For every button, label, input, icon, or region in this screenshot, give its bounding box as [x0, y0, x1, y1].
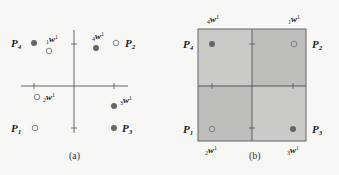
- label-3w1: 3w1: [287, 145, 299, 156]
- point-2w1: [34, 94, 40, 100]
- quadrant-top-right: [252, 29, 306, 86]
- point-3w1: [111, 103, 117, 109]
- label-p2: P2: [125, 37, 136, 51]
- label-p4: P4: [183, 38, 194, 52]
- panel-a: P4 1w1 4w1 P2 2w1 3w1 P1 P3 (a): [11, 30, 136, 162]
- label-1w1: 1w1: [46, 34, 58, 45]
- point-p3: [111, 125, 117, 131]
- label-p3: P3: [312, 123, 323, 137]
- label-1w1: 1w1: [288, 14, 300, 25]
- point-4w1: [93, 45, 99, 51]
- point-p1: [32, 125, 38, 131]
- caption-a: (a): [69, 150, 80, 162]
- figure: P4 1w1 4w1 P2 2w1 3w1 P1 P3 (a): [0, 0, 339, 175]
- label-2w1: 2w1: [205, 145, 217, 156]
- label-p1: P1: [183, 123, 193, 137]
- point-p3: [290, 126, 296, 132]
- panel-b: 4w1 1w1 2w1 3w1 P4 P2 P1 P3 (b): [183, 14, 323, 162]
- label-2w1: 2w1: [43, 92, 55, 103]
- point-p2: [113, 40, 119, 46]
- label-3w1: 3w1: [120, 95, 132, 106]
- label-p3: P3: [122, 122, 133, 136]
- quadrant-bottom-left: [198, 86, 252, 141]
- label-p2: P2: [312, 38, 323, 52]
- label-4w1: 4w1: [92, 31, 104, 42]
- label-p4: P4: [11, 37, 22, 51]
- label-p1: P1: [11, 122, 21, 136]
- point-p4: [209, 41, 215, 47]
- label-4w1: 4w1: [207, 14, 219, 25]
- quadrant-top-left: [198, 29, 252, 86]
- caption-b: (b): [249, 150, 261, 162]
- quadrant-bottom-right: [252, 86, 306, 141]
- point-1w1: [46, 48, 52, 54]
- point-p4: [31, 40, 37, 46]
